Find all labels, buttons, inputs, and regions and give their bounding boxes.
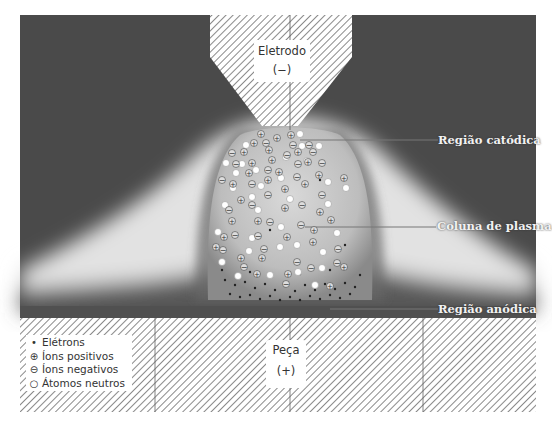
- svg-text:−: −: [294, 173, 301, 182]
- legend-label: Átomos neutros: [42, 377, 125, 391]
- svg-text:−: −: [294, 258, 301, 267]
- electrode-label: Eletrodo: [254, 44, 310, 58]
- svg-text:−: −: [241, 263, 248, 272]
- svg-text:+: +: [311, 227, 317, 235]
- svg-text:+: +: [310, 239, 316, 247]
- svg-text:−: −: [232, 231, 239, 240]
- svg-text:+: +: [246, 170, 252, 178]
- svg-text:−: −: [283, 280, 290, 289]
- legend: • Elétrons ⊕ Íons positivos ⊖ Íons negat…: [26, 335, 132, 391]
- legend-item-negative-ions: ⊖ Íons negativos: [29, 363, 129, 377]
- svg-text:+: +: [282, 186, 288, 194]
- svg-text:+: +: [255, 218, 261, 226]
- legend-item-neutral-atoms: ○ Átomos neutros: [29, 377, 129, 391]
- svg-text:+: +: [266, 147, 272, 155]
- svg-text:+: +: [302, 181, 308, 189]
- workpiece-label: Peça: [266, 343, 306, 357]
- svg-text:+: +: [230, 181, 236, 189]
- svg-text:+: +: [265, 177, 271, 185]
- svg-text:−: −: [263, 139, 270, 148]
- legend-item-electrons: • Elétrons: [29, 336, 129, 350]
- anode-region-label: Região anódica: [438, 302, 537, 316]
- svg-text:−: −: [255, 232, 262, 241]
- svg-text:−: −: [334, 259, 341, 268]
- svg-text:−: −: [265, 166, 272, 175]
- svg-text:+: +: [295, 149, 301, 157]
- svg-text:+: +: [285, 271, 291, 279]
- svg-text:+: +: [238, 255, 244, 263]
- svg-text:−: −: [284, 151, 291, 160]
- svg-text:+: +: [241, 149, 247, 157]
- svg-text:−: −: [249, 180, 256, 189]
- svg-text:−: −: [220, 246, 227, 255]
- svg-text:−: −: [295, 160, 302, 169]
- svg-text:−: −: [229, 149, 236, 158]
- svg-text:+: +: [341, 175, 347, 183]
- workpiece-polarity: (+): [266, 364, 306, 378]
- svg-text:+: +: [254, 271, 260, 279]
- arc-plasma-diagram: + + + + + + + + + + + + + + + + + + + + …: [0, 0, 552, 432]
- svg-text:+: +: [229, 218, 235, 226]
- svg-text:−: −: [308, 264, 315, 273]
- svg-text:−: −: [219, 176, 226, 185]
- svg-text:+: +: [328, 217, 334, 225]
- svg-text:−: −: [267, 218, 274, 227]
- svg-text:−: −: [298, 221, 305, 230]
- svg-text:+: +: [251, 140, 257, 148]
- svg-text:+: +: [249, 160, 255, 168]
- svg-text:−: −: [319, 159, 326, 168]
- svg-text:+: +: [284, 234, 290, 242]
- svg-text:+: +: [288, 132, 294, 140]
- svg-text:+: +: [276, 169, 282, 177]
- svg-text:+: +: [327, 283, 333, 291]
- svg-text:+: +: [317, 209, 323, 217]
- svg-text:+: +: [282, 205, 288, 213]
- svg-text:+: +: [316, 172, 322, 180]
- svg-text:+: +: [269, 157, 275, 165]
- electrode-polarity: (−): [254, 63, 310, 77]
- svg-text:+: +: [274, 135, 280, 143]
- svg-text:+: +: [213, 244, 219, 252]
- circle-minus-icon: ⊖: [29, 363, 39, 377]
- legend-item-positive-ions: ⊕ Íons positivos: [29, 350, 129, 364]
- svg-text:−: −: [261, 245, 268, 254]
- svg-text:+: +: [305, 159, 311, 167]
- legend-label: Íons positivos: [42, 350, 114, 364]
- svg-text:−: −: [319, 191, 326, 200]
- svg-text:+: +: [259, 255, 265, 263]
- svg-text:+: +: [221, 234, 227, 242]
- svg-text:−: −: [233, 160, 240, 169]
- legend-label: Íons negativos: [42, 363, 118, 377]
- plasma-column-label: Coluna de plasma: [437, 219, 552, 233]
- svg-text:+: +: [341, 264, 347, 272]
- svg-text:−: −: [265, 191, 272, 200]
- legend-label: Elétrons: [42, 336, 85, 350]
- electron-dot-icon: •: [29, 336, 39, 350]
- cathode-region-label: Região catódica: [438, 133, 541, 147]
- svg-text:+: +: [258, 131, 264, 139]
- svg-text:−: −: [299, 201, 306, 210]
- circle-outline-icon: ○: [29, 377, 39, 391]
- svg-text:+: +: [238, 197, 244, 205]
- circle-plus-icon: ⊕: [29, 350, 39, 364]
- svg-text:−: −: [310, 148, 317, 157]
- svg-text:−: −: [226, 206, 233, 215]
- svg-text:−: −: [290, 141, 297, 150]
- svg-text:−: −: [335, 245, 342, 254]
- svg-text:−: −: [249, 201, 256, 210]
